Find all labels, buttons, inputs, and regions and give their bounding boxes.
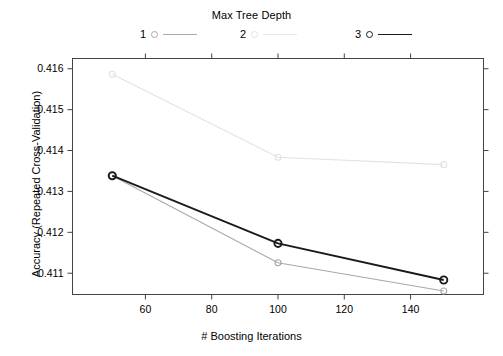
x-axis-title: # Boosting Iterations [0,330,503,342]
plot-frame [73,59,484,295]
y-axis-ticks: 0.4110.4120.4130.4140.4150.416 [37,62,488,279]
y-axis-title: Accuracy (Repeated Cross-Validation) [30,64,42,304]
series-line [112,176,443,280]
series-depth-2 [109,71,446,167]
series-layer [109,71,448,294]
x-tick-label: 140 [402,303,420,315]
plot-area: 6080100120140 0.4110.4120.4130.4140.4150… [0,0,503,356]
x-tick-label: 60 [140,303,152,315]
series-line [112,74,443,164]
series-depth-3 [109,172,448,284]
x-axis-ticks: 6080100120140 [140,54,420,315]
chart-figure: Max Tree Depth 1 2 3 6080100120140 0.411… [0,0,503,356]
x-tick-label: 80 [206,303,218,315]
x-tick-label: 100 [269,303,287,315]
series-depth-1 [109,173,446,294]
series-line [112,176,443,291]
x-tick-label: 120 [336,303,354,315]
